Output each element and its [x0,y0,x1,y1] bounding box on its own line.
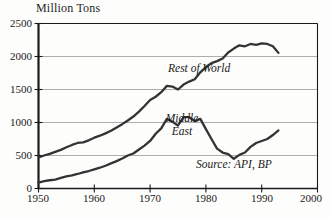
y-tick-label-500: 500 [0,149,32,161]
x-tick-label-1960: 1960 [74,192,114,204]
y-tick-label-1500: 1500 [0,83,32,95]
y-tick-label-2500: 2500 [0,17,32,29]
x-tick-label-1950: 1950 [18,192,58,204]
series-label-middle-east-line2: East [155,125,209,138]
plot-area [0,0,331,220]
series-label-middle-east: Middle East [155,112,209,138]
chart-figure: Million Tons 2500 2000 1500 1000 500 0 1… [0,0,331,220]
series-label-middle-east-line1: Middle [155,112,209,125]
y-tick-label-1000: 1000 [0,116,32,128]
series-label-rest-of-world: Rest of World [168,62,230,75]
x-tick-label-1970: 1970 [130,192,170,204]
x-tick-label-2000: 2000 [291,192,331,204]
x-tick-label-1990: 1990 [242,192,282,204]
source-note: Source: API, BP [196,158,272,170]
x-tick-label-1980: 1980 [186,192,226,204]
y-tick-label-2000: 2000 [0,50,32,62]
